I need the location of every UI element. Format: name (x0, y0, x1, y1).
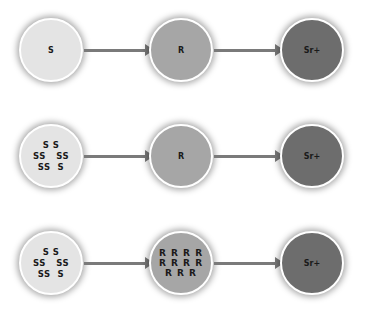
row1-sr-node: Sr+ (280, 18, 344, 82)
node-label-line: R R R R (159, 258, 203, 268)
row2-sr-node: Sr+ (280, 124, 344, 188)
node-label-line: S S (43, 247, 60, 258)
node-label-line: SS SS (33, 258, 69, 269)
row3-arrow-1 (84, 262, 146, 265)
node-label-line: SS S (38, 162, 64, 173)
row2-s-node: S S SS SS SS S (19, 124, 83, 188)
row3-s-node: S S SS SS SS S (19, 231, 83, 295)
row1-s-node: S (19, 18, 83, 82)
row1-r-node: R (149, 18, 213, 82)
row3-sr-node: Sr+ (280, 231, 344, 295)
node-label: Sr+ (304, 259, 320, 268)
node-label: R (178, 152, 184, 161)
row2-arrow-2 (214, 155, 276, 158)
node-label: R (178, 46, 184, 55)
row1-arrow-2 (214, 49, 276, 52)
node-label: Sr+ (304, 152, 320, 161)
row3-r-node: R R R R R R R R R R R (149, 231, 213, 295)
row2-arrow-1 (84, 155, 146, 158)
node-label-line: R R R (165, 268, 197, 278)
node-label-line: R R R R (159, 248, 203, 258)
row1-arrow-1 (84, 49, 146, 52)
node-label: S (48, 46, 54, 55)
node-label-line: S S (43, 140, 60, 151)
node-label-line: SS S (38, 269, 64, 280)
node-label: Sr+ (304, 46, 320, 55)
node-label-line: SS SS (33, 151, 69, 162)
row2-r-node: R (149, 124, 213, 188)
row3-arrow-2 (214, 262, 276, 265)
